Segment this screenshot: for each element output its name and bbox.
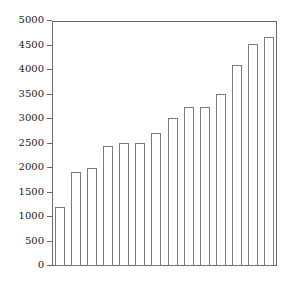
- y-axis-tick-label: 2500: [19, 137, 44, 149]
- y-axis-tick-label: 1000: [19, 210, 44, 222]
- bar: [71, 172, 81, 266]
- y-axis-tick-label: 500: [25, 235, 44, 247]
- bar: [103, 146, 113, 266]
- bar-chart: 0500100015002000250030003500400045005000: [0, 0, 288, 287]
- y-axis-tick-label: 5000: [19, 14, 44, 26]
- y-axis-tick-label: 4000: [19, 63, 44, 75]
- bar: [184, 107, 194, 266]
- bar: [232, 65, 242, 266]
- bar: [87, 168, 97, 266]
- bar: [135, 143, 145, 266]
- y-axis-tick-label: 2000: [19, 161, 44, 173]
- bar: [168, 118, 178, 266]
- y-axis-tick-label: 3500: [19, 88, 44, 100]
- bar: [151, 133, 161, 266]
- y-axis-tick-label: 1500: [19, 186, 44, 198]
- bar: [216, 94, 226, 266]
- y-axis-tick-label: 3000: [19, 112, 44, 124]
- y-axis: 0500100015002000250030003500400045005000: [0, 0, 52, 287]
- y-axis-tick-label: 0: [38, 259, 44, 271]
- bar: [200, 107, 210, 266]
- bar: [248, 44, 258, 266]
- bar: [119, 143, 129, 266]
- y-axis-tick-label: 4500: [19, 39, 44, 51]
- bar: [55, 207, 65, 266]
- bars-layer: [52, 21, 277, 266]
- bar: [264, 37, 274, 266]
